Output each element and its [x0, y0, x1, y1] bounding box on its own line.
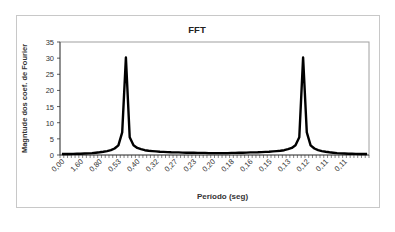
x-tick-label: 0,23 — [181, 157, 198, 174]
x-tick-label: 0,11 — [314, 157, 330, 173]
x-tick-label: 0,27 — [163, 157, 180, 174]
y-tick-label: 30 — [46, 54, 54, 63]
y-tick-label: 5 — [50, 135, 54, 144]
x-tick-label: 1,60 — [68, 157, 85, 174]
x-axis-label: Período (seg) — [197, 192, 248, 201]
y-tick-label: 20 — [46, 86, 54, 95]
y-tick-label: 15 — [46, 103, 54, 112]
x-tick-label: 0,12 — [295, 157, 312, 174]
x-tick-label: 0,40 — [125, 157, 142, 174]
x-tick-label: 0,15 — [257, 157, 274, 174]
x-tick-label: 0,53 — [106, 157, 123, 174]
series-line — [62, 58, 367, 155]
y-tick-label: 0 — [50, 151, 54, 160]
x-tick-label: 0,11 — [333, 157, 349, 173]
x-tick-label: 0,18 — [219, 157, 236, 174]
y-tick-label: 25 — [46, 70, 54, 79]
x-tick-label: 0,80 — [87, 157, 104, 174]
x-tick-label: 0,20 — [200, 157, 217, 174]
y-axis-label: Magntude dos coef. de Fourier — [20, 44, 29, 153]
x-tick-label: 0,32 — [144, 157, 161, 174]
x-tick-label: 0,13 — [276, 157, 293, 174]
chart-title: FFT — [188, 24, 206, 35]
y-tick-label: 10 — [46, 119, 54, 128]
plot-area — [60, 42, 369, 155]
fft-chart: FFT05101520253035Magntude dos coef. de F… — [0, 0, 395, 232]
y-tick-label: 35 — [46, 38, 54, 47]
x-tick-label: 0,16 — [238, 157, 255, 174]
